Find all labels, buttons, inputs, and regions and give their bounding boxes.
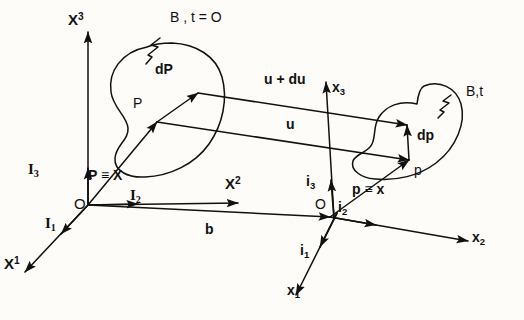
line-element-dP (157, 93, 198, 122)
position-vector-label-P: P ≡ X (88, 168, 122, 182)
position-vector-P (88, 122, 157, 205)
displacement-vector-u-plus-du (198, 93, 407, 125)
basis-arrow-i1 (320, 213, 337, 247)
basis-label-i3: i3 (306, 174, 315, 190)
frame-offset-label-b: b (205, 222, 214, 236)
basis-label-i2: i2 (338, 200, 347, 216)
axis-label-x3: x3 (332, 80, 345, 96)
line-element-label-dP: dP (155, 62, 173, 76)
axis-label-X2: X2 (225, 176, 241, 191)
basis-label-I2: I2 (130, 188, 141, 205)
axis-label-X3: X3 (68, 12, 84, 27)
figure-linework (0, 0, 524, 320)
current-body-leader (438, 95, 451, 118)
point-label-P: P (133, 96, 142, 110)
basis-label-I3: I3 (28, 162, 39, 179)
origin-label-reference: O (74, 196, 86, 211)
basis-label-I1: I1 (45, 216, 56, 233)
current-body-label: B,t (466, 84, 483, 98)
basis-arrow-i2 (330, 217, 376, 225)
axis-label-x1: x1 (287, 283, 300, 299)
basis-label-i1: i1 (300, 243, 309, 259)
frame-offset-vector-b (88, 205, 330, 217)
deformation-figure: X3 I3 X2 I2 X1 I1 O B , t = O dP P P ≡ X… (0, 0, 524, 320)
point-label-p: p (414, 163, 422, 177)
position-vector-label-p: p ≡ x (352, 182, 384, 196)
origin-label-current: O (315, 197, 326, 211)
axis-label-x2: x2 (472, 230, 485, 246)
displacement-label-u-plus-du: u + du (264, 72, 306, 86)
displacement-label-u: u (286, 117, 295, 131)
displacement-vector-u (157, 122, 409, 160)
line-element-label-dp: dp (417, 128, 434, 142)
reference-body-label: B , t = O (170, 10, 222, 24)
axis-label-X1: X1 (4, 256, 20, 271)
line-element-dp (407, 125, 409, 160)
